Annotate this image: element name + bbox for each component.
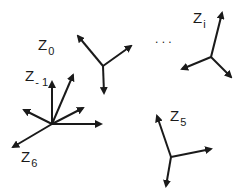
axis-arrow <box>166 157 171 186</box>
frame-zi <box>182 13 231 77</box>
frame-z0 <box>78 36 131 93</box>
axis-arrow <box>103 66 104 93</box>
frame-label-zm1: Z- 1 <box>25 67 48 88</box>
axis-arrow <box>171 149 211 157</box>
axis-arrow <box>78 36 103 66</box>
ellipsis: . . . <box>155 32 172 46</box>
axis-arrow <box>182 57 211 69</box>
coordinate-frames-diagram: Z0ZiZ- 1Z6Z5 . . . <box>0 0 245 194</box>
axis-arrow <box>157 116 171 157</box>
frame-label-z6: Z6 <box>21 148 37 169</box>
axis-arrow <box>13 124 52 147</box>
axis-arrow <box>211 13 222 57</box>
axis-arrow <box>52 75 73 124</box>
axis-arrow <box>103 46 131 66</box>
axis-arrow <box>24 110 52 124</box>
frame-label-z5: Z5 <box>170 107 186 128</box>
frame-label-zi: Zi <box>193 9 206 30</box>
axis-arrow <box>211 57 231 77</box>
axis-arrow <box>52 108 83 124</box>
frame-z6 <box>13 124 52 147</box>
frame-label-z0: Z0 <box>38 36 54 57</box>
